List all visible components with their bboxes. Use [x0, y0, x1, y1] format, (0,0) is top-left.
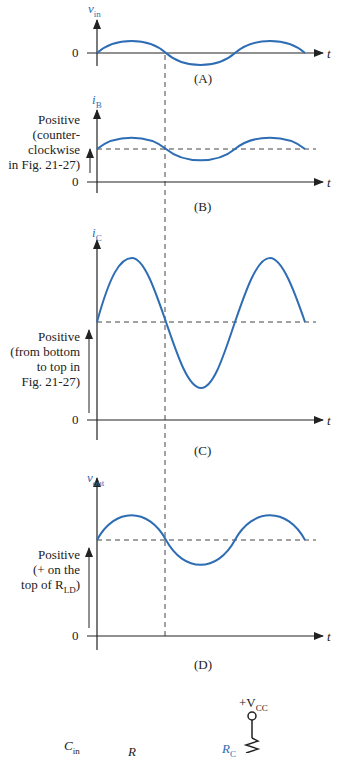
ic-waveform [97, 258, 305, 388]
panel-c-t-label: t [327, 413, 331, 428]
panel-b-note: Positive(counter-clockwisein Fig. 21-27) [0, 112, 80, 172]
ic-axis-label: iC [92, 225, 102, 246]
panel-d-t-label: t [327, 629, 331, 644]
panel-c-zero: 0 [72, 412, 79, 427]
panel-c [87, 240, 323, 440]
rc-label: RC [222, 741, 236, 761]
r-label: R [128, 744, 136, 759]
panel-b-t-label: t [327, 175, 331, 190]
panel-c-note: Positive(from bottomto top inFig. 21-27) [0, 329, 80, 389]
panel-b-zero: 0 [72, 174, 79, 189]
panel-c-caption: (C) [194, 443, 211, 458]
circuit-fragment [246, 712, 258, 753]
panel-a-caption: (A) [194, 71, 212, 86]
cin-label: Cin [64, 738, 80, 759]
panel-d [87, 478, 323, 650]
vout-axis-label: vout [87, 470, 104, 491]
panel-a-t-label: t [327, 46, 331, 61]
panel-a-zero: 0 [72, 45, 79, 60]
panel-b [87, 110, 323, 193]
panel-d-caption: (D) [194, 657, 212, 672]
vin-axis-label: vin [88, 1, 101, 22]
panel-d-note: Positive(+ on thetop of RLD) [0, 547, 80, 598]
panel-b-caption: (B) [194, 199, 211, 214]
panel-d-zero: 0 [72, 628, 79, 643]
panel-a [87, 20, 323, 66]
vcc-label: +VCC [239, 695, 268, 716]
ib-axis-label: iB [92, 92, 102, 113]
